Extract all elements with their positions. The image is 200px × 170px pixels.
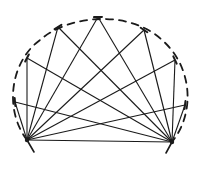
geometry-diagram bbox=[0, 0, 200, 170]
arc-point-P7 bbox=[185, 101, 186, 109]
ray-A-P7 bbox=[27, 105, 185, 140]
ray-B-P3 bbox=[58, 27, 172, 142]
base-point-B bbox=[170, 140, 174, 144]
ray-B-P4 bbox=[98, 17, 172, 142]
ray-B-P7 bbox=[172, 105, 185, 142]
ray-A-P1 bbox=[15, 102, 27, 140]
ray-group bbox=[15, 17, 185, 142]
base-point-A bbox=[25, 138, 29, 142]
arc-point-P1 bbox=[15, 98, 16, 106]
ray-A-P5 bbox=[27, 30, 144, 140]
ray-A-P6 bbox=[27, 60, 175, 140]
ray-B-P2 bbox=[27, 58, 172, 142]
base-chord bbox=[27, 140, 172, 142]
ray-B-P6 bbox=[172, 60, 175, 142]
ray-A-P3 bbox=[27, 27, 58, 140]
ray-B-P1 bbox=[15, 102, 172, 142]
